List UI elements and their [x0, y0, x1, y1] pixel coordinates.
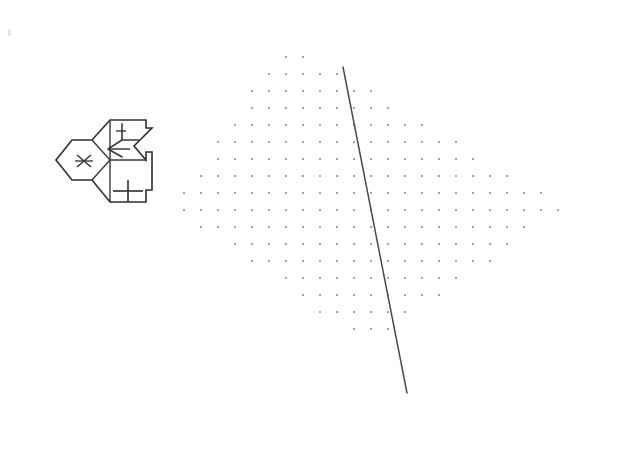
grid-dot	[455, 260, 457, 262]
grid-dot	[285, 124, 287, 126]
grid-dot	[336, 192, 338, 194]
grid-dot	[336, 226, 338, 228]
grid-dot	[302, 175, 304, 177]
grid-dot	[319, 260, 321, 262]
grid-dot	[353, 328, 355, 330]
transect-line-group	[343, 67, 407, 393]
grid-dot	[353, 141, 355, 143]
grid-dot	[251, 90, 253, 92]
grid-dot	[472, 226, 474, 228]
grid-dot	[268, 260, 270, 262]
grid-dot	[353, 277, 355, 279]
grid-dot	[404, 277, 406, 279]
grid-dot	[285, 277, 287, 279]
grid-dot	[251, 226, 253, 228]
grid-dot	[302, 226, 304, 228]
grid-dot	[302, 56, 304, 58]
grid-dot	[353, 226, 355, 228]
grid-dot	[472, 192, 474, 194]
grid-dot	[285, 107, 287, 109]
grid-dot	[336, 294, 338, 296]
grid-dot	[353, 158, 355, 160]
grid-dot	[370, 277, 372, 279]
grid-dot	[336, 260, 338, 262]
grid-dot	[251, 243, 253, 245]
grid-dot	[319, 209, 321, 211]
grid-dot	[268, 73, 270, 75]
grid-dot	[302, 243, 304, 245]
grid-dot	[234, 243, 236, 245]
grid-dot	[268, 107, 270, 109]
grid-dot	[370, 192, 372, 194]
grid-dot	[285, 260, 287, 262]
grid-dot	[387, 277, 389, 279]
grid-dot	[387, 107, 389, 109]
grid-dot	[438, 226, 440, 228]
grid-dot	[421, 226, 423, 228]
grid-dot	[285, 141, 287, 143]
grid-dot	[506, 226, 508, 228]
grid-dot	[404, 175, 406, 177]
grid-dot	[302, 124, 304, 126]
grid-dot	[370, 243, 372, 245]
grid-dot	[217, 226, 219, 228]
grid-dot	[404, 192, 406, 194]
branching-arrow-outline	[56, 120, 152, 202]
grid-dot	[472, 175, 474, 177]
grid-dot	[421, 294, 423, 296]
grid-dot	[455, 277, 457, 279]
grid-dot	[489, 192, 491, 194]
transect-line	[343, 67, 407, 393]
grid-dot	[319, 107, 321, 109]
grid-dot	[421, 124, 423, 126]
grid-dot	[251, 175, 253, 177]
grid-dot	[370, 141, 372, 143]
grid-dot	[455, 226, 457, 228]
grid-dot	[336, 158, 338, 160]
grid-dot	[183, 209, 185, 211]
grid-dot	[387, 124, 389, 126]
grid-dot	[319, 73, 321, 75]
grid-dot	[438, 158, 440, 160]
grid-dot	[506, 243, 508, 245]
grid-dot	[319, 175, 321, 177]
dot-field-group	[183, 56, 559, 330]
grid-dot	[336, 209, 338, 211]
grid-dot	[285, 226, 287, 228]
grid-dot	[268, 124, 270, 126]
grid-dot	[370, 260, 372, 262]
grid-dot	[438, 260, 440, 262]
grid-dot	[455, 175, 457, 177]
grid-dot	[251, 192, 253, 194]
grid-dot	[489, 260, 491, 262]
grid-dot	[404, 260, 406, 262]
grid-dot	[370, 226, 372, 228]
grid-dot	[387, 243, 389, 245]
grid-dot	[302, 158, 304, 160]
grid-dot	[217, 158, 219, 160]
grid-dot	[319, 158, 321, 160]
grid-dot	[319, 124, 321, 126]
grid-dot	[472, 158, 474, 160]
grid-dot	[302, 209, 304, 211]
grid-dot	[336, 243, 338, 245]
grid-dot	[489, 175, 491, 177]
grid-dot	[285, 192, 287, 194]
grid-dot	[387, 175, 389, 177]
grid-dot	[183, 192, 185, 194]
grid-dot	[455, 209, 457, 211]
grid-dot	[336, 124, 338, 126]
grid-dot	[404, 243, 406, 245]
grid-dot	[268, 192, 270, 194]
grid-dot	[438, 209, 440, 211]
grid-dot	[268, 175, 270, 177]
grid-dot	[251, 141, 253, 143]
grid-dot	[455, 243, 457, 245]
grid-dot	[404, 141, 406, 143]
grid-dot	[506, 209, 508, 211]
grid-dot	[523, 209, 525, 211]
grid-dot	[489, 243, 491, 245]
grid-dot	[285, 90, 287, 92]
grid-dot	[455, 158, 457, 160]
grid-dot	[336, 107, 338, 109]
